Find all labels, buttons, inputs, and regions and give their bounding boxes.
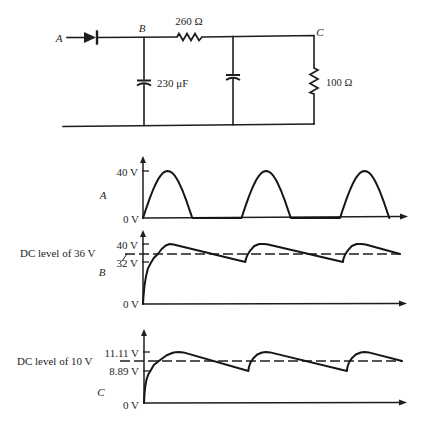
load-resistor-label: 100 Ω [326,77,352,88]
x-axis [143,304,400,305]
dc-level-annotation: DC level of 10 V [17,355,93,367]
y-tick-label: 32 V [117,257,139,269]
x-axis-arrow-icon [399,400,407,406]
input-capacitor-label: 230 μF [157,77,188,89]
y-tick-label: 0 V [123,298,139,310]
y-axis-arrow-icon [141,329,147,336]
node-label-b: B [139,22,146,34]
resistor-zigzag [177,34,202,41]
graph-node-label: A [99,189,107,201]
y-tick-label: 0 V [123,213,139,225]
y-tick-label: 11.11 V [105,347,139,359]
waveform-graph-a: 40 V 0 V A [99,156,408,225]
node-label-a: A [55,32,63,44]
series-resistor-label: 260 Ω [175,15,202,27]
waveform-graph-c: 11.11 V 8.89 V 0 V C DC level of 10 V [17,329,407,411]
waveform-line [143,244,400,304]
diode-symbol [84,32,97,44]
graph-node-label: B [99,266,106,278]
y-tick-label: 0 V [123,399,139,411]
y-tick-label: 40 V [117,166,139,178]
series-resistor-symbol [177,34,202,41]
waveform-graph-b: 40 V 32 V 0 V B DC level of 36 V [20,230,407,310]
y-tick-label: 40 V [117,239,139,251]
x-axis-arrow-icon [399,301,407,307]
circuit-diagram: A B 260 Ω C 100 Ω 230 μF [55,15,353,127]
input-capacitor-symbol [137,38,151,126]
waveform-line [143,171,389,218]
x-axis [143,217,401,219]
load-resistor-symbol [310,68,318,124]
x-axis-arrow-icon [400,214,408,220]
graph-node-label: C [97,386,105,398]
waveform-line [144,352,402,403]
wire-to-node-c [202,36,314,69]
y-tick-label: 8.89 V [109,365,139,377]
figure: A B 260 Ω C 100 Ω 230 μF [0,0,424,429]
node-label-c: C [316,26,324,38]
resistor-zigzag [310,68,318,94]
x-axis [144,403,400,404]
diode-anode-triangle [84,32,96,43]
filter-capacitor-symbol [226,37,240,125]
y-axis-arrow-icon [140,156,146,163]
dc-level-annotation: DC level of 36 V [20,247,96,259]
y-axis-arrow-icon [140,230,146,237]
ground-return-wire [63,124,314,127]
wire-diode-to-b [97,37,177,38]
